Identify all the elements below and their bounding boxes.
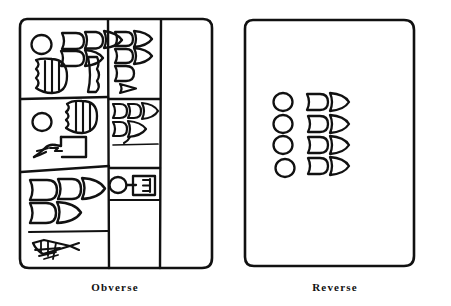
caption-obverse: Obverse bbox=[45, 281, 185, 293]
tablet-drawing-svg bbox=[0, 0, 451, 306]
obverse-column-rule-2 bbox=[160, 20, 161, 268]
tablet-figure bbox=[0, 0, 451, 306]
figure-background bbox=[0, 0, 451, 306]
obverse-row-rule-left-3 bbox=[29, 231, 108, 232]
caption-reverse: Reverse bbox=[265, 281, 405, 293]
obverse-subrule-mid bbox=[113, 144, 158, 145]
